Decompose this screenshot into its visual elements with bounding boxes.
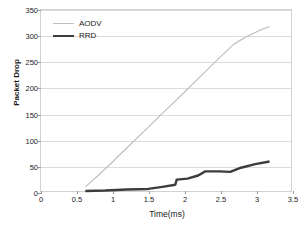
series-line-rrd: [85, 162, 269, 191]
x-tick-label: 2: [183, 195, 187, 204]
packet-drop-line-chart: Packet Drop 050100150200250300350 00.511…: [0, 0, 303, 228]
x-tick-mark: [257, 191, 258, 194]
legend-swatch-aodv-icon: [53, 23, 74, 24]
y-tick-label: 100: [4, 136, 38, 145]
x-tick-label: 1.5: [144, 195, 154, 204]
x-tick-mark: [149, 191, 150, 194]
x-tick-mark: [41, 191, 42, 194]
y-tick-label: 50: [4, 162, 38, 171]
y-tick-label: 150: [4, 110, 38, 119]
x-tick-mark: [185, 191, 186, 194]
legend-label-rrd: RRD: [79, 31, 96, 40]
x-tick-label: 0: [39, 195, 43, 204]
x-tick-label: 1: [111, 195, 115, 204]
x-tick-label: 3: [255, 195, 259, 204]
legend-swatch-rrd-icon: [53, 35, 74, 37]
legend-label-aodv: AODV: [79, 19, 102, 28]
plot-area: 050100150200250300350 00.511.522.533.5 A…: [40, 9, 292, 192]
x-tick-label: 2.5: [216, 195, 226, 204]
y-tick-label: 250: [4, 58, 38, 67]
y-tick-label: 300: [4, 32, 38, 41]
x-tick-label: 0.5: [72, 195, 82, 204]
x-tick-mark: [293, 191, 294, 194]
x-tick-label: 3.5: [288, 195, 298, 204]
series-line-aodv: [85, 27, 269, 187]
x-tick-mark: [113, 191, 114, 194]
legend-item-aodv: AODV: [53, 18, 102, 29]
x-axis-title: Time(ms): [38, 209, 296, 219]
y-tick-label: 200: [4, 84, 38, 93]
y-tick-label: 350: [4, 6, 38, 15]
legend-item-rrd: RRD: [53, 30, 102, 41]
legend: AODV RRD: [53, 18, 102, 42]
x-tick-mark: [77, 191, 78, 194]
x-tick-mark: [221, 191, 222, 194]
y-tick-label: 0: [4, 189, 38, 198]
